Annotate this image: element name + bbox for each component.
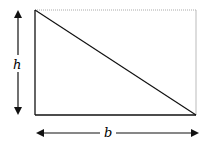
triangle-diagram: h b	[0, 0, 208, 145]
triangle-hypotenuse	[35, 10, 196, 115]
base-label: b	[104, 125, 112, 140]
height-label: h	[13, 57, 21, 72]
